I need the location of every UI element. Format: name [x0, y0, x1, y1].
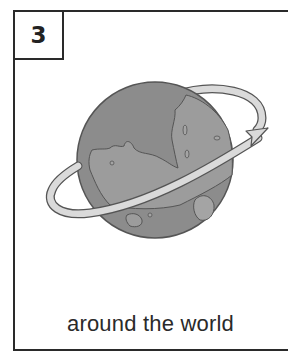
- globe-with-orbit-arrow-icon: [0, 0, 288, 363]
- card-caption: around the world: [13, 311, 288, 337]
